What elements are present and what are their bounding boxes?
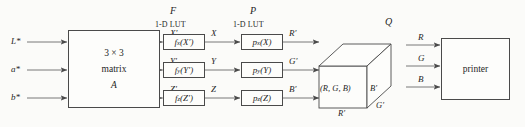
lut-box-pz-arg: (Z) <box>260 93 271 103</box>
matrix-block: 3 × 3 matrix A <box>68 30 160 108</box>
signal-label-y: Y <box>211 57 216 66</box>
lut-box-px-arg: (X) <box>260 37 272 47</box>
lut-box-fz: fz(Z′) <box>163 90 205 106</box>
cube-edge-label-b-prime: B′ <box>370 83 377 93</box>
cube-face-label: (R, G, B) <box>320 83 351 93</box>
stage-q-group-label: Q <box>385 16 392 27</box>
lut-box-py: py(Y) <box>241 62 283 78</box>
lut-box-fz-arg: (Z′) <box>180 93 193 103</box>
stage-p-group-label: P <box>250 5 256 16</box>
lut-box-px: px(X) <box>241 34 283 50</box>
lut-box-fy-arg: (Y′) <box>180 65 193 75</box>
lut-box-fx: fx(X′) <box>163 34 205 50</box>
signal-label-x: X <box>211 29 217 38</box>
signal-label-z: Z <box>211 85 216 94</box>
matrix-size-label: 3 × 3 <box>104 48 124 58</box>
lut-cube-3d: (R, G, B) B′ R′ G′ <box>316 40 400 114</box>
cube-edge-label-g-prime: G′ <box>376 100 384 110</box>
signal-label-g-prime: G′ <box>289 57 297 66</box>
printer-input-label-b: B <box>418 75 424 84</box>
printer-block: printer <box>441 38 510 100</box>
matrix-name-label: A <box>111 80 117 90</box>
lut-box-py-arg: (Y) <box>260 65 271 75</box>
stage-p-caption: 1-D LUT <box>233 20 264 29</box>
lut-box-fy: fy(Y′) <box>163 62 205 78</box>
cube-edge-label-r-prime: R′ <box>338 108 345 118</box>
stage-f-group-label: F <box>170 5 176 16</box>
input-label-bstar: b* <box>11 93 20 102</box>
signal-label-b-prime: B′ <box>289 85 296 94</box>
input-label-lstar: L* <box>11 37 21 46</box>
color-pipeline-diagram: L* a* b* 3 × 3 matrix A X′ Y′ Z′ F 1-D L… <box>0 0 525 127</box>
lut-box-fx-arg: (X′) <box>180 37 193 47</box>
input-label-astar: a* <box>11 65 20 74</box>
signal-label-r-prime: R′ <box>289 29 296 38</box>
lut-box-pz: pz(Z) <box>241 90 283 106</box>
matrix-word-label: matrix <box>102 64 127 74</box>
printer-label: printer <box>463 64 488 74</box>
printer-input-label-g: G <box>418 54 425 63</box>
stage-f-caption: 1-D LUT <box>155 20 186 29</box>
printer-input-label-r: R <box>418 33 424 42</box>
